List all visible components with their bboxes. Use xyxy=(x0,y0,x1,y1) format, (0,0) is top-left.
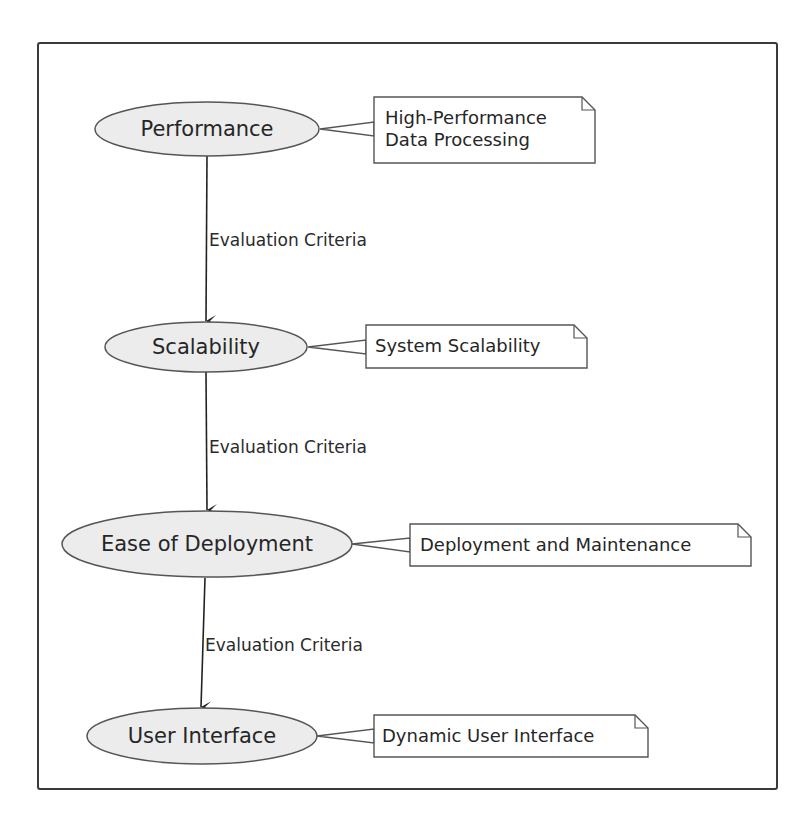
note-connector-userinterface xyxy=(317,729,374,743)
node-label-performance: Performance xyxy=(140,117,273,141)
edge-label-3: Evaluation Criteria xyxy=(205,635,363,655)
note-text-performance: High-Performance Data Processing xyxy=(385,107,547,151)
node-label-scalability: Scalability xyxy=(152,335,260,359)
note-text-userinterface: Dynamic User Interface xyxy=(382,725,594,747)
edge-scalability-deployment xyxy=(206,372,207,510)
diagram-canvas: Performance Scalability Ease of Deployme… xyxy=(0,0,812,827)
edge-performance-scalability xyxy=(206,155,207,321)
note-connector-performance xyxy=(320,122,374,136)
node-label-user-interface: User Interface xyxy=(128,724,277,748)
note-connector-deployment xyxy=(352,538,410,552)
note-connector-scalability xyxy=(308,340,366,354)
edge-label-2: Evaluation Criteria xyxy=(209,437,367,457)
edge-label-1: Evaluation Criteria xyxy=(209,230,367,250)
note-text-deployment: Deployment and Maintenance xyxy=(420,534,691,556)
node-label-ease-of-deployment: Ease of Deployment xyxy=(101,532,313,556)
note-text-scalability: System Scalability xyxy=(375,335,540,357)
